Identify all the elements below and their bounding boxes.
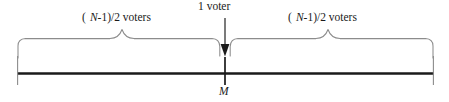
left-brace [18,30,220,59]
arrowhead-icon [221,44,230,57]
right-brace-label-variable: N [296,11,304,23]
center-arrow-label: 1 voter [198,1,230,13]
right-brace-label-suffix: -1)/2 voters [304,11,357,23]
left-brace-label: ( N-1)/2 voters [82,12,151,24]
axis-point-label: M [219,86,229,98]
left-brace-label-suffix: -1)/2 voters [98,11,151,23]
center-arrow [221,18,230,57]
median-voter-diagram: ( N-1)/2 voters ( N-1)/2 voters 1 voter … [0,0,449,102]
left-brace-label-variable: N [90,11,98,23]
left-brace-label-prefix: ( [82,11,90,23]
right-brace-label: ( N-1)/2 voters [288,12,357,24]
right-brace-label-prefix: ( [288,11,296,23]
right-brace [230,30,433,59]
